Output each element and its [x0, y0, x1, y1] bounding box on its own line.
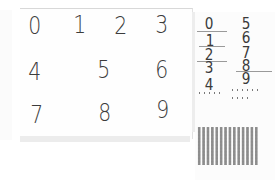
digit-1: 1 — [73, 13, 86, 37]
digit-8: 8 — [98, 101, 111, 125]
digit-6: 6 — [155, 58, 168, 82]
paper-edge — [0, 10, 12, 140]
dotted-line — [230, 89, 260, 91]
dotted-line — [197, 92, 221, 94]
digit-7: 7 — [30, 103, 43, 127]
small-digit-9: 9 — [242, 71, 251, 86]
sheet-shadow — [20, 136, 190, 142]
small-digit-0: 0 — [205, 16, 214, 31]
small-digit-4: 4 — [205, 77, 214, 92]
digit-3: 3 — [155, 13, 168, 37]
small-digit-3: 3 — [205, 60, 214, 75]
dotted-line — [230, 97, 250, 99]
digit-2: 2 — [114, 14, 127, 38]
dot-grid — [197, 127, 259, 165]
digit-5: 5 — [97, 58, 110, 82]
digit-4: 4 — [28, 60, 41, 84]
digit-0: 0 — [28, 14, 41, 38]
digit-9: 9 — [156, 98, 169, 122]
